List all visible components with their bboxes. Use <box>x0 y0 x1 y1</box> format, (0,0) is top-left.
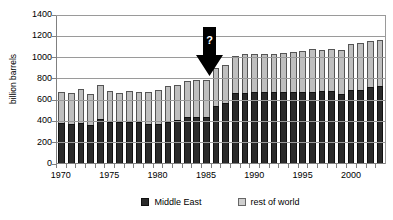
stacked-bar-1997 <box>319 50 326 163</box>
bar-segment-rest-of-world-1985 <box>203 80 210 117</box>
x-axis-tick-1982 <box>172 164 182 168</box>
bar-segment-rest-of-world-1998 <box>328 49 335 92</box>
bar-segment-rest-of-world-1978 <box>136 92 143 122</box>
bar-segment-middle-east-1991 <box>261 92 268 162</box>
bar-segment-rest-of-world-1982 <box>174 85 181 121</box>
y-axis-tick-1400 <box>52 15 56 16</box>
stacked-bar-1979 <box>145 92 152 163</box>
stacked-bar-1995 <box>299 51 306 162</box>
oil-reserves-stacked-bar-chart: billion barrels 140012001000800600400200… <box>0 0 393 220</box>
stacked-bar-1975 <box>107 91 114 162</box>
bar-segment-rest-of-world-1989 <box>242 54 249 92</box>
stacked-bar-1986 <box>213 68 220 162</box>
x-axis-label-slot-1972 <box>75 169 85 183</box>
y-axis-tick-200 <box>52 142 56 143</box>
stacked-bar-1993 <box>280 53 287 162</box>
y-axis-label-1000: 1000 <box>18 53 52 62</box>
bar-segment-rest-of-world-1977 <box>126 91 133 122</box>
bar-segment-rest-of-world-1984 <box>193 80 200 117</box>
x-axis-label-slot-2003 <box>375 169 385 183</box>
bar-segment-middle-east-1992 <box>271 92 278 162</box>
bar-segment-rest-of-world-2001 <box>357 43 364 89</box>
bar-segment-rest-of-world-1997 <box>319 50 326 92</box>
x-axis-label-slot-2002 <box>366 169 376 183</box>
stacked-bar-1990 <box>251 54 258 163</box>
x-axis-tick-1987 <box>220 164 230 168</box>
x-axis-tick-1976 <box>114 164 124 168</box>
y-axis-tick-1200 <box>52 36 56 37</box>
stacked-bar-1988 <box>232 56 239 163</box>
x-axis-tick-1978 <box>133 164 143 168</box>
x-axis-label-slot-1983 <box>182 169 192 183</box>
legend-label-middle-east: Middle East <box>154 197 201 207</box>
plot-frame-top-border <box>56 15 385 16</box>
bar-segment-middle-east-1989 <box>242 93 249 163</box>
x-axis-tick-1977 <box>124 164 134 168</box>
x-axis-label-slot-1980: 1980 <box>153 169 163 183</box>
x-axis-tick-1984 <box>191 164 201 168</box>
x-axis-tick-1971 <box>66 164 76 168</box>
stacked-bar-1992 <box>271 54 278 163</box>
y-axis-label-800: 800 <box>18 74 52 83</box>
x-axis-label-slot-1991 <box>259 169 269 183</box>
plot-area <box>56 15 385 164</box>
legend-swatch-middle-east <box>141 198 149 206</box>
x-axis-label-slot-1970: 1970 <box>56 169 66 183</box>
stacked-bar-1994 <box>290 52 297 162</box>
y-axis-label-600: 600 <box>18 95 52 104</box>
bar-segment-rest-of-world-1976 <box>116 93 123 122</box>
bar-segment-middle-east-1996 <box>309 92 316 163</box>
x-axis-label-slot-1988 <box>230 169 240 183</box>
x-axis-tick-1999 <box>336 164 346 168</box>
gridline-1200 <box>57 36 385 37</box>
bar-segment-middle-east-1974 <box>97 119 104 163</box>
x-axis-label-slot-1982 <box>172 169 182 183</box>
legend-item-middle-east: Middle East <box>141 197 201 207</box>
stacked-bar-1987 <box>222 65 229 162</box>
stacked-bar-2002 <box>367 41 374 163</box>
x-axis-label-slot-1975: 1975 <box>104 169 114 183</box>
bar-segment-middle-east-1986 <box>213 106 220 163</box>
x-axis-tick-1989 <box>240 164 250 168</box>
x-axis-tick-2002 <box>366 164 376 168</box>
x-axis-label-slot-1977 <box>124 169 134 183</box>
x-axis-ticks <box>56 164 385 168</box>
bar-segment-middle-east-1987 <box>222 103 229 163</box>
y-axis-label-1400: 1400 <box>18 10 52 19</box>
x-axis-tick-1985 <box>201 164 211 168</box>
stacked-bar-1978 <box>136 92 143 162</box>
x-axis-tick-1993 <box>278 164 288 168</box>
legend-swatch-rest-of-world <box>238 198 246 206</box>
x-axis-tick-2000 <box>346 164 356 168</box>
bar-segment-rest-of-world-1991 <box>261 54 268 92</box>
bar-segment-middle-east-2003 <box>377 86 384 162</box>
bar-segment-rest-of-world-1974 <box>97 85 104 119</box>
bar-segment-middle-east-2002 <box>367 87 374 163</box>
bar-segment-middle-east-1988 <box>232 93 239 162</box>
stacked-bar-2000 <box>348 44 355 162</box>
x-axis-tick-1992 <box>269 164 279 168</box>
x-axis-tick-1972 <box>75 164 85 168</box>
bar-segment-middle-east-1973 <box>87 125 94 163</box>
stacked-bar-1973 <box>87 94 94 163</box>
stacked-bar-1996 <box>309 49 316 162</box>
stacked-bar-1991 <box>261 54 268 163</box>
y-axis-tick-0 <box>52 164 56 165</box>
stacked-bar-1982 <box>174 85 181 163</box>
x-axis-label-slot-1997 <box>317 169 327 183</box>
bar-segment-middle-east-1990 <box>251 92 258 162</box>
stacked-bar-2001 <box>357 43 364 162</box>
x-axis-label-slot-1978 <box>133 169 143 183</box>
bar-segment-middle-east-1997 <box>319 91 326 162</box>
x-axis-label-slot-1996 <box>307 169 317 183</box>
x-axis-label-slot-1976 <box>114 169 124 183</box>
x-axis-tick-1988 <box>230 164 240 168</box>
x-axis-label-slot-2001 <box>356 169 366 183</box>
stacked-bar-1976 <box>116 93 123 163</box>
gridline-1000 <box>57 57 385 58</box>
bar-segment-rest-of-world-1992 <box>271 54 278 92</box>
y-axis-tick-800 <box>52 78 56 79</box>
stacked-bar-1989 <box>242 54 249 162</box>
bar-segment-rest-of-world-2000 <box>348 44 355 90</box>
bar-segment-rest-of-world-1975 <box>107 91 114 122</box>
